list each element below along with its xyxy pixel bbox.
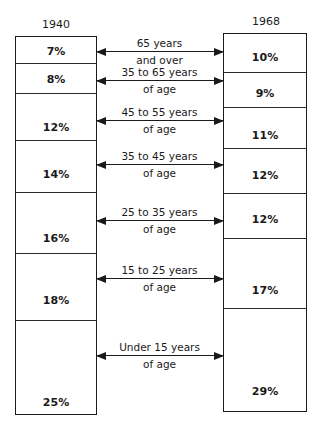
segment-right: 11% xyxy=(224,107,306,149)
percentage-label: 14% xyxy=(16,168,96,181)
percentage-label: 11% xyxy=(224,129,306,142)
segment-right: 9% xyxy=(224,72,306,108)
age-group-label: Under 15 years xyxy=(96,341,223,354)
segment-right: 12% xyxy=(224,148,306,194)
age-group-sublabel: of age xyxy=(96,358,223,371)
age-group-sublabel: of age xyxy=(96,83,223,96)
double-arrow-icon xyxy=(97,120,223,121)
segment-left: 12% xyxy=(16,93,96,141)
segment-right: 17% xyxy=(224,238,306,309)
percentage-label: 29% xyxy=(224,385,306,398)
percentage-label: 12% xyxy=(224,169,306,182)
percentage-label: 10% xyxy=(224,51,306,64)
age-group-sublabel: of age xyxy=(96,167,223,180)
percentage-label: 7% xyxy=(16,45,96,58)
percentage-label: 18% xyxy=(16,294,96,307)
percentage-label: 25% xyxy=(16,396,96,409)
percentage-label: 12% xyxy=(16,121,96,134)
percentage-label: 9% xyxy=(224,87,306,100)
age-group-sublabel: of age xyxy=(96,123,223,136)
segment-right: 10% xyxy=(224,34,306,72)
age-group-label: 45 to 55 years xyxy=(96,106,223,119)
double-arrow-icon xyxy=(97,80,223,81)
age-group-sublabel: of age xyxy=(96,281,223,294)
segment-left: 25% xyxy=(16,320,96,416)
double-arrow-icon xyxy=(97,355,223,356)
segment-left: 14% xyxy=(16,140,96,193)
segment-right: 29% xyxy=(224,308,306,413)
age-group-label: 35 to 65 years xyxy=(96,66,223,79)
double-arrow-icon xyxy=(97,278,223,279)
percentage-label: 12% xyxy=(224,213,306,226)
age-group-sublabel: of age xyxy=(96,223,223,236)
double-arrow-icon xyxy=(97,51,223,52)
segment-left: 8% xyxy=(16,63,96,94)
segment-left: 16% xyxy=(16,192,96,254)
segment-left: 18% xyxy=(16,253,96,321)
year-label-1940: 1940 xyxy=(26,18,86,31)
column-1940: 7%8%12%14%16%18%25% xyxy=(15,36,97,415)
segment-left: 7% xyxy=(16,37,96,63)
double-arrow-icon xyxy=(97,164,223,165)
percentage-label: 17% xyxy=(224,284,306,297)
age-group-label: 15 to 25 years xyxy=(96,264,223,277)
age-group-label: 65 years xyxy=(96,37,223,50)
percentage-label: 8% xyxy=(16,73,96,86)
segment-right: 12% xyxy=(224,193,306,239)
percentage-label: 16% xyxy=(16,232,96,245)
age-group-label: 35 to 45 years xyxy=(96,150,223,163)
column-1968: 10%9%11%12%12%17%29% xyxy=(223,33,307,412)
year-label-1968: 1968 xyxy=(236,15,296,28)
age-group-label: 25 to 35 years xyxy=(96,206,223,219)
double-arrow-icon xyxy=(97,220,223,221)
